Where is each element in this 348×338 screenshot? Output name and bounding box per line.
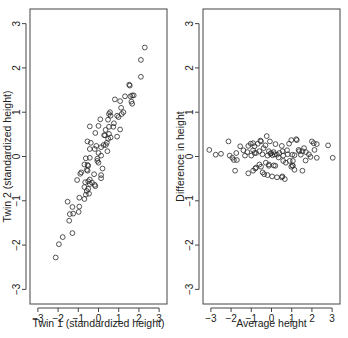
x-tick-label: −3 xyxy=(205,313,217,324)
data-point xyxy=(70,205,75,210)
data-point xyxy=(106,117,111,122)
data-point xyxy=(314,155,319,160)
y-axis-label: Twin 2 (standardized height) xyxy=(1,91,13,223)
data-point xyxy=(219,151,224,156)
data-point xyxy=(92,172,97,177)
data-point xyxy=(312,148,317,153)
y-tick-label: −2 xyxy=(11,239,22,251)
data-point xyxy=(213,152,218,157)
data-point xyxy=(207,148,212,153)
data-point xyxy=(270,174,275,179)
data-point xyxy=(78,171,83,176)
y-tick-label: −3 xyxy=(11,283,22,295)
data-point xyxy=(273,142,278,147)
data-point xyxy=(123,94,128,99)
data-point xyxy=(226,139,231,144)
data-point xyxy=(87,147,92,152)
data-point xyxy=(233,168,238,173)
data-point xyxy=(113,97,118,102)
x-tick-label: 2 xyxy=(309,313,315,324)
data-point xyxy=(100,166,105,171)
data-point xyxy=(265,173,270,178)
data-point xyxy=(65,199,70,204)
data-points xyxy=(53,45,147,260)
data-point xyxy=(234,151,239,156)
data-point xyxy=(264,134,269,139)
data-point xyxy=(291,159,296,164)
data-point xyxy=(70,231,75,236)
data-point xyxy=(115,134,120,139)
data-point xyxy=(245,150,250,155)
data-point xyxy=(60,235,65,240)
data-point xyxy=(275,175,280,180)
y-tick-label: 3 xyxy=(184,20,195,26)
data-point xyxy=(139,58,144,63)
data-point xyxy=(67,218,72,223)
y-axis: −3−2−10123 xyxy=(184,20,199,295)
data-points xyxy=(207,134,335,182)
data-point xyxy=(118,127,123,132)
data-point xyxy=(77,204,82,209)
data-point xyxy=(82,197,87,202)
data-point xyxy=(243,153,248,158)
data-point xyxy=(314,142,319,147)
data-point xyxy=(246,171,251,176)
data-point xyxy=(98,117,103,122)
data-point xyxy=(326,143,331,148)
data-point xyxy=(99,176,104,181)
data-point xyxy=(103,127,108,132)
y-tick-label: 2 xyxy=(184,65,195,71)
y-axis: −3−2−10123 xyxy=(11,20,26,295)
data-point xyxy=(105,149,110,154)
data-point xyxy=(279,144,284,149)
data-point xyxy=(289,138,294,143)
data-point xyxy=(300,168,305,173)
data-point xyxy=(53,255,58,260)
data-point xyxy=(83,180,88,185)
data-point xyxy=(115,113,120,118)
data-point xyxy=(268,139,273,144)
data-point xyxy=(260,152,265,157)
data-point xyxy=(303,158,308,163)
data-point xyxy=(75,178,80,183)
scatter-panel-average-vs-difference: −3−2−10123 −3−2−10123 Average height Dif… xyxy=(174,9,340,329)
data-point xyxy=(96,124,101,129)
x-axis-label: Average height xyxy=(236,317,307,329)
y-tick-label: −2 xyxy=(184,239,195,251)
data-point xyxy=(142,45,147,50)
y-tick-label: −3 xyxy=(184,283,195,295)
figure: −3−2−10123 −3−2−10123 Twin 1 (standardiz… xyxy=(0,0,348,338)
data-point xyxy=(57,242,62,247)
plot-frame xyxy=(203,9,340,304)
data-point xyxy=(292,167,297,172)
data-point xyxy=(287,141,292,146)
data-point xyxy=(139,74,144,79)
data-point xyxy=(67,212,72,217)
data-point xyxy=(235,158,240,163)
y-tick-label: 2 xyxy=(11,65,22,71)
data-point xyxy=(76,210,81,215)
data-point xyxy=(87,124,92,129)
data-point xyxy=(116,115,121,120)
data-point xyxy=(93,131,98,136)
scatter-panel-twin1-vs-twin2: −3−2−10123 −3−2−10123 Twin 1 (standardiz… xyxy=(1,9,167,329)
data-point xyxy=(118,99,123,104)
data-point xyxy=(249,153,254,158)
x-tick-label: 3 xyxy=(329,313,335,324)
y-tick-label: 3 xyxy=(11,20,22,26)
data-point xyxy=(330,155,335,160)
data-point xyxy=(77,195,82,200)
y-axis-label: Difference in height xyxy=(174,111,186,201)
x-axis-label: Twin 1 (standardized height) xyxy=(33,317,165,329)
